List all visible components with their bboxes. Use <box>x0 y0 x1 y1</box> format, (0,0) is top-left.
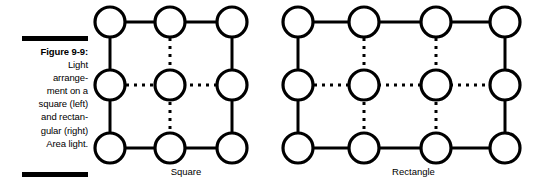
light-node <box>349 133 379 163</box>
rectangle-solid-connectors <box>298 22 505 148</box>
light-node <box>349 7 379 37</box>
light-node <box>283 70 313 100</box>
caption-rule-top <box>22 36 88 41</box>
light-node <box>283 7 313 37</box>
caption-line-7: Area light. <box>4 137 88 150</box>
caption-rule-bottom <box>22 172 88 177</box>
light-node <box>95 133 125 163</box>
figure-caption-text: Figure 9-9: Light arrange- ment on a squ… <box>4 45 88 150</box>
caption-line-6: gular (right) <box>4 124 88 137</box>
light-node <box>490 7 520 37</box>
figure-number-label: Figure 9-9: <box>4 45 88 58</box>
rectangle-light-array-svg <box>280 0 547 170</box>
caption-line-5: and rectan- <box>4 110 88 123</box>
caption-line-4: square (left) <box>4 97 88 110</box>
figure-page: Figure 9-9: Light arrange- ment on a squ… <box>0 0 547 193</box>
light-node <box>490 133 520 163</box>
caption-line-1: Light <box>4 58 88 71</box>
caption-line-2: arrange- <box>4 71 88 84</box>
diagram-label-square: Square <box>92 166 280 177</box>
light-node <box>155 133 185 163</box>
light-node <box>283 133 313 163</box>
light-node <box>217 7 247 37</box>
light-node <box>421 70 451 100</box>
light-node <box>155 70 185 100</box>
diagram-rectangle: Rectangle <box>280 0 547 193</box>
square-light-array-svg <box>92 0 280 170</box>
light-node <box>95 7 125 37</box>
light-node <box>155 7 185 37</box>
rectangle-dotted-connectors <box>298 22 505 148</box>
diagram-label-rectangle: Rectangle <box>280 166 547 177</box>
light-node <box>349 70 379 100</box>
light-node <box>217 133 247 163</box>
caption-line-3: ment on a <box>4 84 88 97</box>
square-light-nodes <box>95 7 247 163</box>
light-node <box>421 133 451 163</box>
diagram-square: Square <box>92 0 280 193</box>
light-node <box>421 7 451 37</box>
light-node <box>217 70 247 100</box>
light-node <box>95 70 125 100</box>
figure-caption-block: Figure 9-9: Light arrange- ment on a squ… <box>0 0 92 193</box>
light-node <box>490 70 520 100</box>
